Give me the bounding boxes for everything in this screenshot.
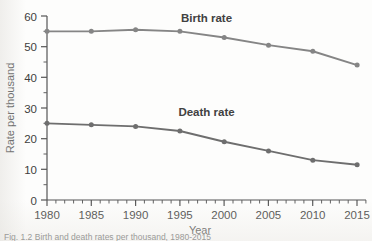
data-point: [45, 29, 50, 34]
data-point: [355, 162, 360, 167]
y-axis-title: Rate per thousand: [4, 63, 16, 154]
y-axis-tick-labels: 60 50 40 30 20 10 0: [24, 11, 37, 207]
x-tick-label: 2005: [256, 209, 282, 221]
x-tick-label: 1995: [167, 209, 193, 221]
y-axis-major-ticks: [41, 16, 47, 200]
series-line: [47, 123, 357, 164]
y-tick-label: 60: [24, 11, 37, 23]
y-tick-label: 40: [24, 72, 37, 84]
data-point: [45, 121, 50, 126]
data-point: [133, 27, 138, 32]
x-tick-label: 2010: [300, 209, 326, 221]
series-line: [47, 30, 357, 65]
data-point: [222, 35, 227, 40]
data-point: [133, 124, 138, 129]
data-point: [222, 139, 227, 144]
x-tick-label: 1985: [79, 209, 105, 221]
data-point: [89, 29, 94, 34]
data-point: [177, 129, 182, 134]
x-tick-label: 2000: [211, 209, 237, 221]
data-point: [89, 122, 94, 127]
data-point: [266, 43, 271, 48]
figure-container: 60 50 40 30 20 10 0 Rate per thousand: [0, 0, 372, 241]
x-tick-label: 1980: [34, 209, 60, 221]
y-tick-label: 20: [24, 133, 37, 145]
data-point: [310, 49, 315, 54]
data-point: [177, 29, 182, 34]
x-axis-tick-labels: 1980 1985 1990 1995 2000 2005 2010 2015: [34, 209, 370, 221]
y-tick-label: 0: [31, 195, 37, 207]
data-point: [310, 158, 315, 163]
data-point: [355, 63, 360, 68]
data-point: [266, 148, 271, 153]
y-tick-label: 10: [24, 164, 37, 176]
x-tick-label: 2015: [344, 209, 370, 221]
line-chart: 60 50 40 30 20 10 0 Rate per thousand: [0, 0, 372, 241]
y-tick-label: 30: [24, 103, 37, 115]
y-tick-label: 50: [24, 41, 37, 53]
series-label-birth-rate: Birth rate: [181, 12, 232, 24]
series-label-death-rate: Death rate: [178, 106, 234, 118]
x-tick-label: 1990: [123, 209, 149, 221]
series-birth-rate: [45, 27, 360, 67]
x-axis-title: Year: [189, 224, 212, 236]
series-death-rate: [45, 121, 360, 167]
x-axis-major-ticks: [47, 200, 357, 206]
series-layer: [45, 27, 360, 167]
